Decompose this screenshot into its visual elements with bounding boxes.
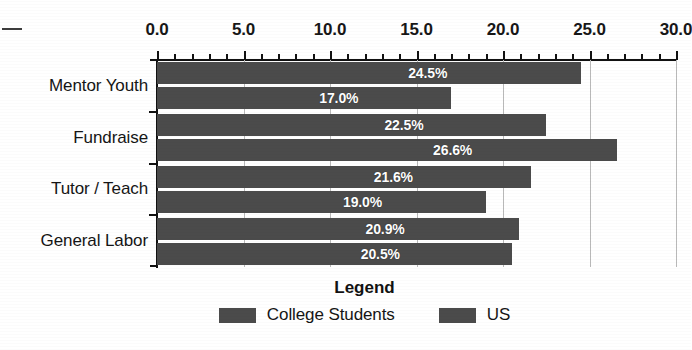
x-minor-tick [382,54,384,60]
x-major-tick [330,51,332,60]
y-category-label: Mentor Youth [49,76,148,96]
x-tick-label: 30.0 [660,20,692,40]
x-minor-tick [278,54,280,60]
x-tick-label: 10.0 [314,20,346,40]
legend-label: US [487,305,510,325]
legend-entry[interactable]: US [439,305,510,325]
x-major-tick [244,51,246,60]
bar-value-label: 17.0% [319,90,358,106]
x-minor-tick [313,54,315,60]
bar: 21.6% [157,166,531,188]
x-minor-tick [192,54,194,60]
x-major-tick [157,51,159,60]
y-category-label: Tutor / Teach [51,179,148,199]
x-minor-tick [295,54,297,60]
bar-value-label: 24.5% [408,65,447,81]
y-category-tick [149,214,158,216]
legend-label: College Students [267,305,395,325]
x-major-tick [417,51,419,60]
x-minor-tick [365,54,367,60]
x-tick-label: 5.0 [232,20,255,40]
x-tick-label: 25.0 [573,20,605,40]
bar: 26.6% [157,139,617,161]
x-minor-tick [607,54,609,60]
x-minor-tick [209,54,211,60]
x-major-tick [503,51,505,60]
bar-value-label: 21.6% [374,169,413,185]
x-minor-tick [572,54,574,60]
x-minor-tick [641,54,643,60]
bar: 20.5% [157,243,512,265]
plot-area: 24.5%17.0%22.5%26.6%21.6%19.0%20.9%20.5% [157,60,676,267]
bar-value-label: 22.5% [384,117,423,133]
bar: 20.9% [157,218,519,240]
x-minor-tick [434,54,436,60]
x-minor-tick [174,54,176,60]
bar-value-label: 20.9% [365,221,404,237]
bar: 17.0% [157,87,451,109]
bar: 22.5% [157,114,546,136]
legend-swatch-icon [219,308,256,323]
x-minor-tick [555,54,557,60]
x-minor-tick [624,54,626,60]
x-minor-tick [538,54,540,60]
x-minor-tick [486,54,488,60]
y-axis-category-labels: Mentor YouthFundraiseTutor / TeachGenera… [0,60,148,267]
x-minor-tick [520,54,522,60]
x-gridline [590,60,591,267]
legend-items: College StudentsUS [0,305,691,325]
legend-swatch-icon [439,308,476,323]
bar: 19.0% [157,191,486,213]
x-tick-label: 0.0 [145,20,168,40]
x-minor-tick [468,54,470,60]
bar-value-label: 26.6% [433,142,472,158]
chart-legend: Legend College StudentsUS [0,278,691,325]
x-minor-tick [261,54,263,60]
x-minor-tick [659,54,661,60]
x-tick-label: 15.0 [400,20,432,40]
bar: 24.5% [157,62,581,84]
x-minor-tick [226,54,228,60]
legend-entry[interactable]: College Students [219,305,395,325]
x-gridline [676,60,677,267]
x-tick-label: 20.0 [487,20,519,40]
y-category-tick [149,111,158,113]
y-category-tick [149,163,158,165]
x-minor-tick [347,54,349,60]
y-category-label: Fundraise [73,128,148,148]
x-major-tick [676,51,678,60]
x-axis-tick-labels: 0.05.010.015.020.025.030.0 [0,20,691,44]
bar-value-label: 19.0% [343,194,382,210]
x-major-tick [590,51,592,60]
x-minor-tick [451,54,453,60]
legend-title: Legend [0,278,691,298]
bar-value-label: 20.5% [361,246,400,262]
x-minor-tick [399,54,401,60]
y-category-label: General Labor [41,231,148,251]
